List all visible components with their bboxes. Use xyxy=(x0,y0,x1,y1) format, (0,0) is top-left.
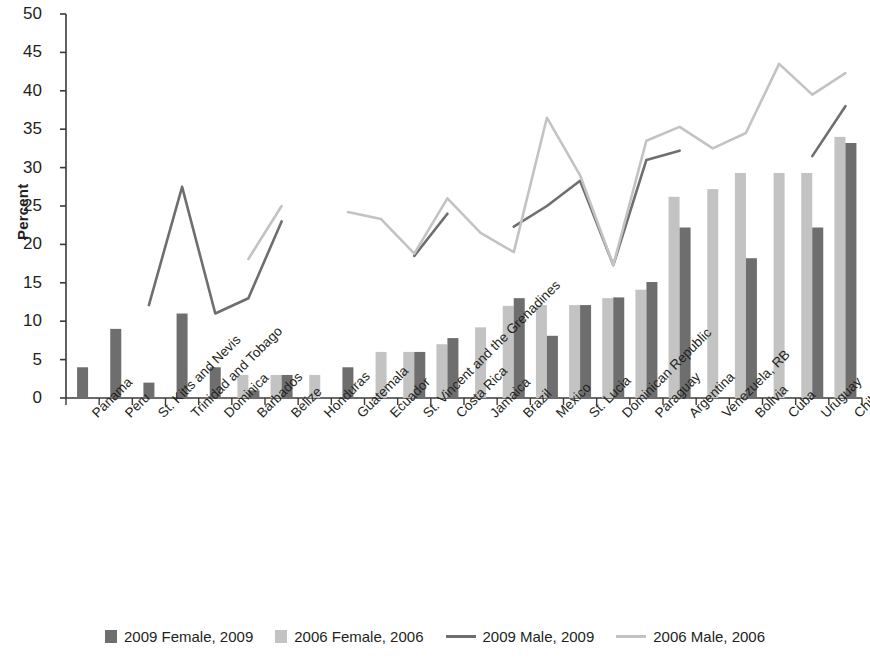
y-tick-label: 5 xyxy=(8,351,42,368)
y-tick-label: 40 xyxy=(8,82,42,99)
y-tick-label: 45 xyxy=(8,43,42,60)
legend-line-swatch-icon xyxy=(446,635,476,638)
bar-2006-female xyxy=(635,290,646,398)
legend-item: 2009 Female, 2009 xyxy=(105,628,253,645)
bar-2009-female xyxy=(845,143,856,398)
bar-2006-female xyxy=(735,173,746,398)
bar-2006-female xyxy=(707,189,718,398)
y-tick-label: 10 xyxy=(8,312,42,329)
y-tick-label: 0 xyxy=(8,389,42,406)
legend-bar-swatch-icon xyxy=(105,630,117,643)
y-tick-label: 35 xyxy=(8,120,42,137)
y-tick-label: 15 xyxy=(8,274,42,291)
bar-2009-female xyxy=(77,367,88,398)
y-tick-label: 30 xyxy=(8,159,42,176)
bar-2006-female xyxy=(801,173,812,398)
line-2009-male xyxy=(149,187,282,314)
bar-2009-female xyxy=(812,228,823,398)
chart-legend: 2009 Female, 20092006 Female, 20062009 M… xyxy=(0,628,870,645)
line-2009-male xyxy=(514,151,680,265)
y-tick-label: 20 xyxy=(8,235,42,252)
legend-label: 2006 Male, 2006 xyxy=(653,628,765,645)
line-2006-male xyxy=(348,64,846,265)
legend-item: 2006 Female, 2006 xyxy=(275,628,423,645)
line-2009-male xyxy=(414,214,447,256)
bar-2006-female xyxy=(536,305,547,398)
y-tick-label: 25 xyxy=(8,197,42,214)
legend-item: 2006 Male, 2006 xyxy=(616,628,765,645)
legend-label: 2006 Female, 2006 xyxy=(294,628,423,645)
y-tick-label: 50 xyxy=(8,5,42,22)
bar-2009-female xyxy=(547,336,558,398)
percent-chart: Percent 05101520253035404550 PanamaPeruS… xyxy=(0,0,870,662)
legend-bar-swatch-icon xyxy=(275,630,287,643)
legend-label: 2009 Female, 2009 xyxy=(124,628,253,645)
legend-item: 2009 Male, 2009 xyxy=(446,628,595,645)
legend-line-swatch-icon xyxy=(616,635,646,638)
plot-area xyxy=(0,0,870,662)
bar-2006-female xyxy=(834,137,845,398)
legend-label: 2009 Male, 2009 xyxy=(483,628,595,645)
